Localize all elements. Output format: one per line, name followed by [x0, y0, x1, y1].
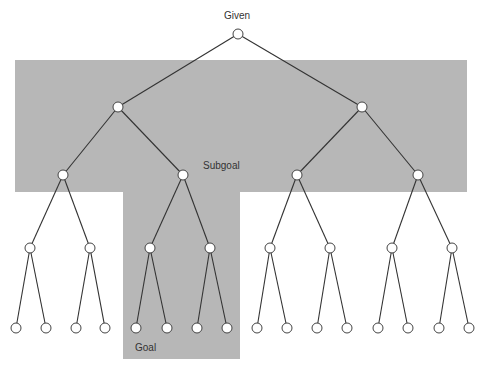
tree-node [145, 243, 155, 253]
tree-node [252, 323, 262, 333]
tree-node [387, 243, 397, 253]
search-tree-diagram [0, 0, 485, 368]
subgoal-shaded-region [15, 60, 467, 359]
tree-edge [378, 248, 392, 328]
tree-node [325, 243, 335, 253]
tree-node [434, 323, 444, 333]
goal-label: Goal [135, 342, 156, 353]
tree-node [113, 102, 123, 112]
tree-node [131, 323, 141, 333]
tree-node [41, 323, 51, 333]
tree-node [265, 243, 275, 253]
tree-node [233, 29, 243, 39]
tree-edge [452, 248, 469, 328]
tree-node [413, 170, 423, 180]
tree-edge [30, 248, 46, 328]
tree-node [192, 323, 202, 333]
tree-edge [76, 248, 90, 328]
tree-node [222, 323, 232, 333]
tree-node [85, 243, 95, 253]
tree-node [373, 323, 383, 333]
tree-node [292, 170, 302, 180]
tree-node [58, 170, 68, 180]
subgoal-label: Subgoal [203, 160, 240, 171]
tree-node [342, 323, 352, 333]
tree-node [100, 323, 110, 333]
tree-edge [330, 248, 347, 328]
given-label: Given [224, 10, 250, 21]
tree-node [162, 323, 172, 333]
tree-node [447, 243, 457, 253]
tree-edge [439, 248, 452, 328]
tree-edge [270, 248, 287, 328]
tree-edge [392, 248, 408, 328]
tree-edge [90, 248, 105, 328]
tree-node [282, 323, 292, 333]
tree-node [403, 323, 413, 333]
tree-edge [16, 248, 30, 328]
tree-node [178, 170, 188, 180]
tree-node [71, 323, 81, 333]
tree-node [357, 102, 367, 112]
tree-edge [317, 248, 330, 328]
tree-node [205, 243, 215, 253]
tree-node [11, 323, 21, 333]
tree-node [25, 243, 35, 253]
tree-edge [257, 248, 270, 328]
tree-node [312, 323, 322, 333]
tree-node [464, 323, 474, 333]
